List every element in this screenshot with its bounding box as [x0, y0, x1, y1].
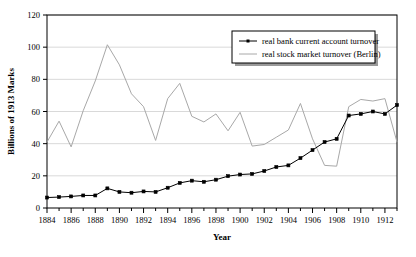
data-point: [58, 196, 61, 199]
y-tick-label: 120: [27, 10, 40, 20]
data-point: [335, 137, 338, 140]
x-tick-label: 1906: [304, 215, 321, 225]
data-point: [190, 179, 193, 182]
x-tick-label: 1902: [256, 215, 273, 225]
data-point: [130, 191, 133, 194]
legend-swatch-marker-0: [247, 40, 250, 43]
data-point: [227, 175, 230, 178]
data-point: [46, 196, 49, 199]
series-line-0: [47, 105, 397, 197]
x-tick-label: 1904: [280, 215, 298, 225]
x-tick-label: 1892: [135, 215, 152, 225]
data-point: [323, 141, 326, 144]
y-tick-label: 60: [32, 107, 41, 117]
x-tick-label: 1884: [39, 215, 57, 225]
data-point: [383, 112, 386, 115]
y-tick-label: 100: [27, 42, 40, 52]
data-point: [202, 180, 205, 183]
x-tick-label: 1890: [111, 215, 128, 225]
x-tick-label: 1886: [63, 215, 80, 225]
data-point: [347, 114, 350, 117]
x-tick-label: 1908: [328, 215, 345, 225]
y-tick-label: 0: [36, 203, 40, 213]
x-tick-label: 1912: [376, 215, 393, 225]
y-axis-title: Billions of 1913 Marks: [6, 68, 16, 155]
y-tick-label: 20: [32, 171, 41, 181]
x-tick-label: 1894: [159, 215, 177, 225]
data-point: [251, 172, 254, 175]
data-point: [371, 110, 374, 113]
data-point: [94, 194, 97, 197]
data-point: [118, 190, 121, 193]
x-tick-label: 1898: [207, 215, 224, 225]
data-point: [142, 190, 145, 193]
data-point: [166, 186, 169, 189]
chart-container: 0204060801001201884188618881890189218941…: [0, 0, 416, 257]
x-axis-title: Year: [213, 232, 231, 242]
data-point: [239, 173, 242, 176]
data-point: [275, 165, 278, 168]
x-tick-label: 1910: [352, 215, 369, 225]
data-point: [70, 195, 73, 198]
y-tick-label: 80: [32, 74, 41, 84]
data-point: [396, 104, 399, 107]
data-point: [214, 178, 217, 181]
x-tick-label: 1896: [183, 215, 200, 225]
data-point: [154, 190, 157, 193]
data-point: [263, 170, 266, 173]
data-point: [359, 112, 362, 115]
data-point: [287, 164, 290, 167]
legend-label-0: real bank current account turnover: [262, 36, 379, 46]
data-point: [106, 187, 109, 190]
line-chart: 0204060801001201884188618881890189218941…: [0, 0, 416, 257]
data-point: [311, 149, 314, 152]
data-point: [299, 157, 302, 160]
y-tick-label: 40: [32, 139, 41, 149]
x-tick-label: 1900: [232, 215, 249, 225]
data-point: [178, 181, 181, 184]
legend-label-1: real stock market turnover (Berlin): [262, 49, 381, 59]
x-tick-label: 1888: [87, 215, 104, 225]
data-point: [82, 194, 85, 197]
